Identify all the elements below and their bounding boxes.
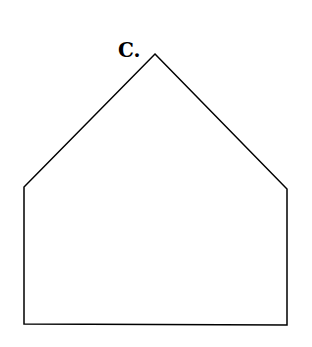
shape-label: C. bbox=[118, 40, 141, 60]
pentagon-outline bbox=[24, 54, 287, 325]
pentagon-shape bbox=[0, 0, 312, 347]
